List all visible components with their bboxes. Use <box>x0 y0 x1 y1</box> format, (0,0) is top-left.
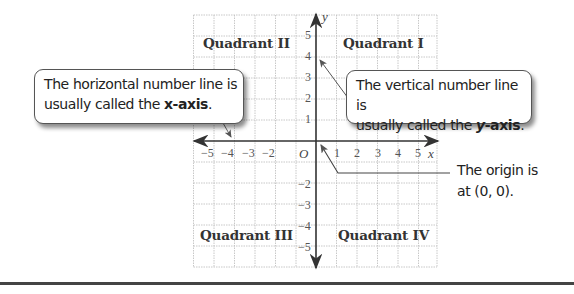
quadrant-ii-label: Quadrant II <box>203 35 290 51</box>
x-axis-pointer <box>223 123 231 137</box>
y-tick: 5 <box>305 29 311 41</box>
x-axis-callout-prefix: usually called the <box>44 96 164 112</box>
origin-note-line1: The origin is <box>457 160 538 181</box>
y-tick: 3 <box>305 71 311 83</box>
x-tick: −3 <box>242 147 255 159</box>
origin-note-line2: at (0, 0). <box>457 181 538 202</box>
y-tick: −4 <box>298 220 311 232</box>
x-tick: 5 <box>415 147 421 159</box>
y-axis-name: y <box>322 9 328 25</box>
y-axis-callout-prefix: usually called the <box>356 117 476 133</box>
y-tick: 1 <box>305 113 311 125</box>
origin-note: The origin is at (0, 0). <box>457 160 538 202</box>
y-tick: −3 <box>298 199 311 211</box>
x-tick: 1 <box>334 147 340 159</box>
x-axis-callout-line1: The horizontal number line is <box>44 74 243 94</box>
x-axis-callout-suffix: . <box>208 96 212 112</box>
x-tick: 4 <box>395 147 401 159</box>
y-axis-callout: The vertical number line is usually call… <box>346 70 532 124</box>
y-axis-term-var: y <box>476 117 485 133</box>
x-tick: −4 <box>221 147 234 159</box>
quadrant-iii-label: Quadrant III <box>200 227 293 243</box>
bottom-divider <box>0 282 574 285</box>
y-axis-callout-line2: usually called the y-axis. <box>356 115 531 135</box>
quadrant-i-label: Quadrant I <box>343 35 424 51</box>
origin-label: O <box>299 146 308 162</box>
y-axis-term-rest: -axis <box>485 117 520 133</box>
x-axis-name: x <box>428 146 434 162</box>
x-axis-callout: The horizontal number line is usually ca… <box>34 69 244 124</box>
coordinate-plane-diagram: Quadrant II Quadrant I Quadrant III Quad… <box>0 0 574 294</box>
x-axis-term: x-axis <box>164 96 208 112</box>
x-tick: −2 <box>262 147 275 159</box>
x-tick: 3 <box>375 147 381 159</box>
y-tick: −5 <box>298 241 311 253</box>
y-tick: 4 <box>305 50 311 62</box>
y-tick: 2 <box>305 92 311 104</box>
quadrant-iv-label: Quadrant IV <box>338 227 429 243</box>
y-tick: −2 <box>298 178 311 190</box>
y-axis-callout-line1: The vertical number line is <box>356 75 531 115</box>
y-axis-callout-suffix: . <box>520 117 524 133</box>
x-tick: 2 <box>354 147 360 159</box>
x-axis-callout-line2: usually called the x-axis. <box>44 94 243 114</box>
y-axis-pointer <box>320 60 348 98</box>
x-tick: −5 <box>201 147 214 159</box>
